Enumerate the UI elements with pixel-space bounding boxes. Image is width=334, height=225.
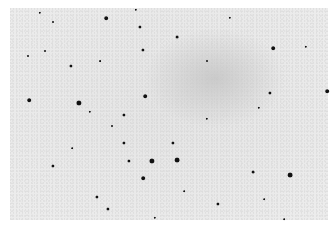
star bbox=[27, 98, 31, 102]
star bbox=[252, 171, 255, 174]
star bbox=[141, 176, 145, 180]
star bbox=[27, 55, 29, 57]
star bbox=[143, 94, 147, 98]
star bbox=[99, 60, 101, 62]
star-field-image bbox=[10, 8, 328, 220]
star bbox=[183, 190, 185, 192]
star bbox=[325, 89, 329, 93]
star bbox=[52, 21, 54, 23]
star bbox=[176, 36, 179, 39]
star bbox=[288, 173, 293, 178]
star bbox=[283, 218, 285, 220]
star bbox=[271, 46, 275, 50]
star bbox=[206, 60, 208, 62]
noise-texture bbox=[10, 8, 328, 220]
star bbox=[104, 16, 108, 20]
star bbox=[44, 50, 46, 52]
star bbox=[111, 125, 113, 127]
star bbox=[71, 147, 73, 149]
star bbox=[175, 158, 180, 163]
star bbox=[263, 198, 265, 200]
